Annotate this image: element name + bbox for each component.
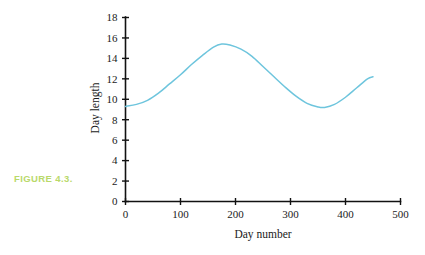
figure-container: FIGURE 4.3. 024681012141618 010020030040… (0, 0, 425, 255)
x-axis-title: Day number (234, 228, 291, 241)
x-tick-label: 500 (392, 208, 409, 220)
x-tick-label: 0 (123, 208, 129, 220)
y-tick-label: 10 (107, 93, 119, 105)
y-axis: 024681012141618 (107, 11, 130, 207)
y-tick-label: 18 (107, 11, 119, 23)
y-tick-label: 0 (112, 195, 118, 207)
y-axis-title: Day length (89, 82, 102, 133)
y-tick-label: 6 (112, 134, 118, 146)
chart-plot-area: 024681012141618 0100200300400500 Day num… (0, 0, 425, 255)
x-tick-label: 400 (337, 208, 354, 220)
y-tick-label: 14 (107, 52, 119, 64)
x-tick-label: 200 (227, 208, 244, 220)
x-tick-label: 300 (282, 208, 299, 220)
chart-svg: 024681012141618 0100200300400500 Day num… (0, 0, 425, 255)
day-length-curve (126, 44, 374, 108)
x-tick-label: 100 (172, 208, 189, 220)
x-axis-tick-labels: 0100200300400500 (123, 208, 410, 220)
y-tick-label: 12 (107, 73, 118, 85)
y-axis-tick-labels: 024681012141618 (107, 11, 119, 207)
y-tick-label: 4 (112, 154, 118, 166)
x-axis: 0100200300400500 (123, 198, 410, 220)
y-tick-label: 16 (107, 32, 119, 44)
y-tick-label: 8 (112, 114, 118, 126)
y-tick-label: 2 (112, 175, 118, 187)
